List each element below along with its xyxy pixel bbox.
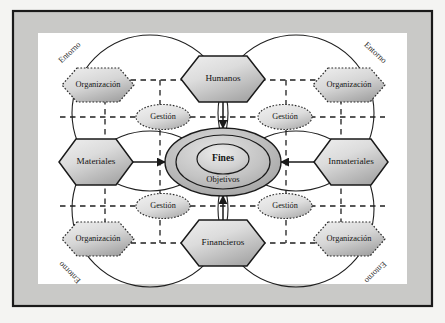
organization-top-left[interactable]: Organización: [62, 68, 134, 102]
management-gestion-top-left[interactable]: Gestión: [136, 105, 190, 130]
management-gestion-top-left-label: Gestión: [150, 112, 175, 121]
management-gestion-bottom-left[interactable]: Gestión: [136, 194, 190, 219]
resource-materiales[interactable]: Materiales: [59, 139, 133, 185]
organization-top-right[interactable]: Organización: [313, 68, 385, 102]
organization-bottom-left-label: Organización: [76, 234, 122, 243]
center-label-objetivos: Objetivos: [206, 174, 240, 184]
management-gestion-bottom-right-label: Gestión: [272, 201, 297, 210]
center-label-fines: Fines: [212, 152, 234, 163]
center-objectives-group: Fines Objetivos: [165, 128, 281, 196]
resource-inmateriales-label: Inmateriales: [328, 156, 374, 166]
resource-financieros[interactable]: Financieros: [181, 220, 265, 266]
management-gestion-bottom-left-label: Gestión: [150, 201, 175, 210]
figure-canvas: Fines Objetivos Humanos Materiales Inmat…: [0, 0, 445, 323]
organization-top-left-label: Organización: [76, 80, 122, 89]
resource-humanos[interactable]: Humanos: [181, 56, 265, 102]
organization-top-right-label: Organización: [327, 80, 373, 89]
resource-inmateriales[interactable]: Inmateriales: [314, 139, 388, 185]
organization-bottom-left[interactable]: Organización: [62, 222, 134, 256]
diagram-svg: Fines Objetivos Humanos Materiales Inmat…: [0, 0, 445, 323]
resource-materiales-label: Materiales: [77, 156, 116, 166]
organization-bottom-right-label: Organización: [327, 234, 373, 243]
organization-bottom-right[interactable]: Organización: [313, 222, 385, 256]
management-gestion-bottom-right[interactable]: Gestión: [258, 194, 312, 219]
resource-financieros-label: Financieros: [202, 237, 245, 247]
management-gestion-top-right-label: Gestión: [272, 112, 297, 121]
management-gestion-top-right[interactable]: Gestión: [258, 105, 312, 130]
resource-humanos-label: Humanos: [205, 73, 241, 83]
